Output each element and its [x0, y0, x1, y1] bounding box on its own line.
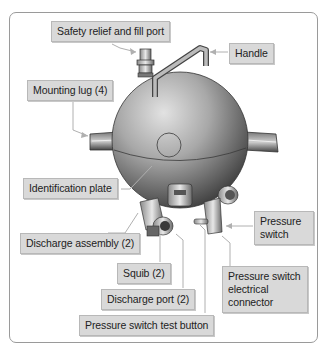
mounting-lug-right	[244, 132, 278, 152]
label-pressure-switch-test-button: Pressure switch test button	[79, 315, 214, 336]
label-mounting-lug: Mounting lug (4)	[27, 80, 113, 101]
label-handle: Handle	[229, 43, 274, 64]
label-identification-plate: Identification plate	[23, 178, 118, 199]
label-pressure-switch: Pressure switch	[254, 211, 314, 245]
safety-relief-port-shape	[137, 49, 154, 77]
label-discharge-port: Discharge port (2)	[101, 289, 195, 310]
label-discharge-assembly: Discharge assembly (2)	[20, 233, 140, 254]
label-pressure-switch-electrical-connector: Pressure switch electrical connector	[222, 266, 308, 313]
label-safety-relief-fill-port: Safety relief and fill port	[51, 21, 170, 42]
label-squib: Squib (2)	[117, 263, 171, 284]
